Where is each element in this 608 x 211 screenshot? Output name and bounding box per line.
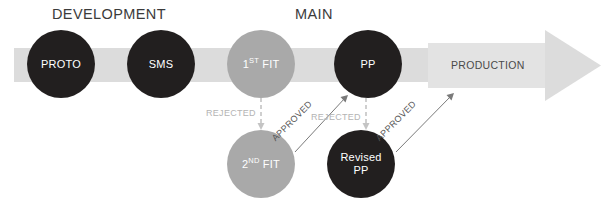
edge-first-fit-rejected [258,98,265,130]
node-proto[interactable]: PROTO [27,30,95,98]
arrow-head [545,30,601,101]
phase-label-development: DEVELOPMENT [52,6,166,22]
diagram-canvas: DEVELOPMENT MAIN PRODUCTION PROTO SMS 1S… [0,0,608,211]
node-second-fit-label: 2ND FIT [242,158,280,171]
node-pp[interactable]: PP [334,30,402,98]
node-first-fit-number: 1 [243,58,249,70]
node-revised-pp-line2: PP [353,164,368,177]
node-pp-label: PP [360,58,375,71]
edge-revised-pp-approved [396,93,454,152]
node-proto-label: PROTO [41,58,81,71]
phase-label-main: MAIN [295,6,333,22]
edge-pp-rejected [363,98,370,130]
node-second-fit-suffix: FIT [260,158,280,170]
node-second-fit-ordinal: ND [248,156,259,165]
node-second-fit-number: 2 [242,158,248,170]
node-revised-pp-line1: Revised [340,151,381,164]
node-sms-label: SMS [149,58,173,71]
node-second-fit[interactable]: 2ND FIT [227,130,295,198]
node-first-fit[interactable]: 1ST FIT [227,30,295,98]
node-revised-pp[interactable]: Revised PP [327,130,395,198]
edge-label-first-fit-rejected: REJECTED [206,108,256,118]
node-first-fit-label: 1ST FIT [243,58,280,71]
node-sms[interactable]: SMS [127,30,195,98]
production-label: PRODUCTION [451,59,525,71]
edge-label-pp-rejected: REJECTED [311,112,361,122]
node-first-fit-ordinal: ST [249,56,259,65]
node-first-fit-suffix: FIT [259,58,279,70]
